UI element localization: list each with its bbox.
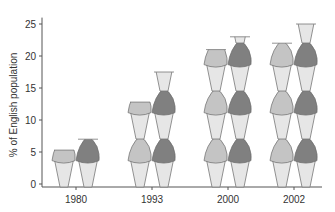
y-tick-label: 10 bbox=[25, 115, 37, 126]
x-tick-label: 2000 bbox=[217, 194, 240, 205]
pictogram-bar bbox=[270, 41, 293, 187]
x-tick-label: 1993 bbox=[141, 194, 164, 205]
pictogram-chart: 0510152025 1980199320002002 % of English… bbox=[0, 0, 335, 212]
pictogram-bar bbox=[128, 89, 151, 187]
x-tick-label: 2002 bbox=[283, 194, 306, 205]
category-group-2000: 2000 bbox=[204, 0, 251, 205]
pictogram-bar bbox=[228, 0, 251, 187]
y-tick-label: 25 bbox=[25, 19, 37, 30]
chart-canvas: 0510152025 1980199320002002 % of English… bbox=[0, 0, 335, 212]
y-tick-label: 20 bbox=[25, 51, 37, 62]
y-axis-label: % of English population bbox=[8, 53, 19, 158]
pictogram-bar bbox=[152, 41, 175, 187]
pictogram-bar bbox=[52, 137, 75, 187]
y-tick-label: 5 bbox=[30, 147, 36, 158]
y-tick-label: 15 bbox=[25, 83, 37, 94]
pictogram-bar bbox=[204, 41, 227, 187]
bars: 1980199320002002 bbox=[52, 0, 317, 205]
pictogram-bar bbox=[76, 137, 99, 187]
pictogram-bar bbox=[294, 0, 317, 187]
category-group-1993: 1993 bbox=[128, 41, 175, 205]
x-tick-label: 1980 bbox=[65, 194, 88, 205]
y-tick-label: 0 bbox=[30, 179, 36, 190]
category-group-1980: 1980 bbox=[52, 137, 99, 205]
category-group-2002: 2002 bbox=[270, 0, 317, 205]
